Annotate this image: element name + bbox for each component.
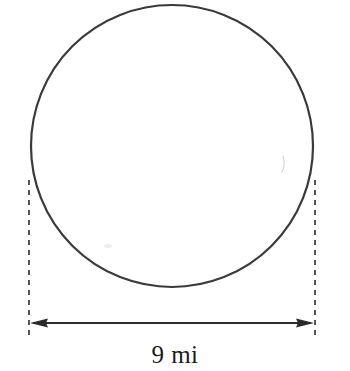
circle-diagram-canvas: 9 mi xyxy=(0,0,350,371)
geometry-figure: 9 mi xyxy=(0,0,350,371)
figure-background xyxy=(0,0,350,371)
diameter-measurement-label: 9 mi xyxy=(151,341,198,368)
scan-artifact-speck xyxy=(104,244,112,248)
